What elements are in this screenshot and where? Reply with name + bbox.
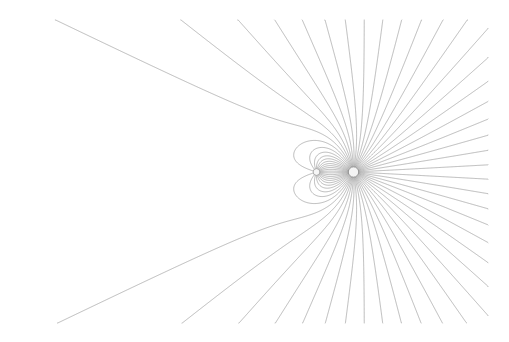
field-line bbox=[302, 20, 353, 166]
field-line bbox=[182, 177, 352, 323]
field-lines bbox=[55, 20, 488, 323]
field-line bbox=[320, 171, 348, 172]
field-line bbox=[358, 176, 488, 316]
field-line bbox=[57, 177, 351, 323]
small-charge-icon bbox=[313, 169, 320, 176]
field-line bbox=[358, 175, 488, 286]
field-line bbox=[358, 28, 488, 168]
field-line bbox=[239, 178, 352, 323]
field-line-diagram bbox=[0, 0, 509, 342]
field-lines-canvas bbox=[0, 0, 509, 342]
large-charge-icon bbox=[348, 167, 358, 177]
field-line bbox=[238, 20, 352, 166]
field-line bbox=[302, 178, 353, 323]
field-line bbox=[55, 20, 351, 167]
field-line bbox=[320, 172, 348, 173]
field-line bbox=[356, 20, 421, 167]
field-line bbox=[358, 57, 488, 168]
field-line bbox=[181, 20, 352, 167]
field-line bbox=[356, 177, 421, 323]
